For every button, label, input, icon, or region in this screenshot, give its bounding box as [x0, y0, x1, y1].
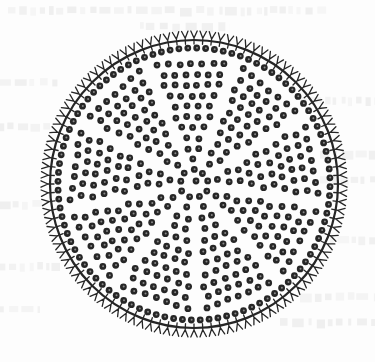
diatom-illustration [0, 0, 375, 362]
scanned-page [0, 0, 375, 362]
areolae-dots [55, 45, 334, 324]
marginal-spines [41, 31, 347, 337]
